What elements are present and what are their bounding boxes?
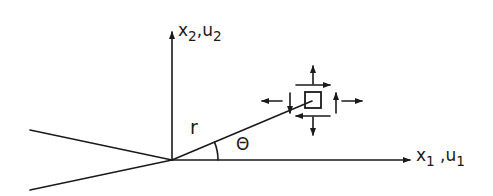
lower-crack-face: [30, 160, 172, 190]
x1-u1-axis-label: x1 ,u1: [416, 147, 465, 168]
stress-element-square: [305, 92, 321, 108]
radius-label: r: [190, 118, 198, 137]
crack-tip-diagram: x2,u2 x1 ,u1 r Θ: [0, 0, 493, 196]
theta-label: Θ: [236, 136, 249, 153]
theta-arc: [215, 142, 219, 160]
upper-crack-face: [30, 130, 172, 160]
x2-u2-axis-label: x2,u2: [178, 22, 222, 43]
